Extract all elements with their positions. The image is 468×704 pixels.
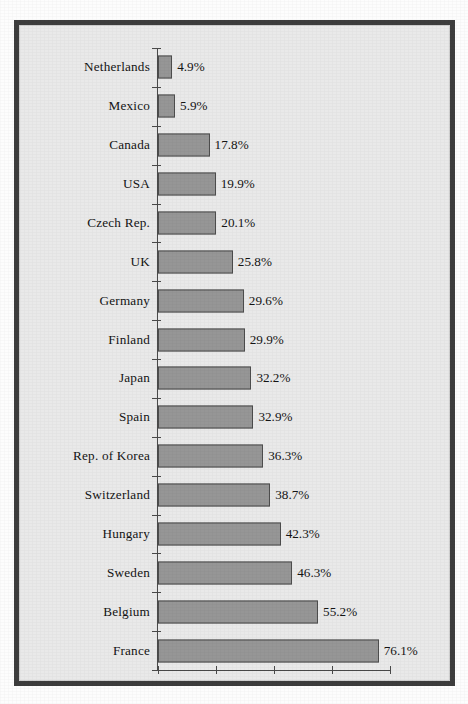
- category-label: Rep. of Korea: [19, 448, 150, 464]
- bar-value-label: 46.3%: [297, 565, 331, 581]
- category-label: Hungary: [19, 526, 150, 542]
- bar-row: Hungary42.3%: [19, 515, 450, 554]
- chart-frame: Netherlands4.9%Mexico5.9%Canada17.8%USA1…: [14, 20, 455, 686]
- bar-value-label: 76.1%: [384, 643, 418, 659]
- category-label: UK: [19, 254, 150, 270]
- category-label: Netherlands: [19, 59, 150, 75]
- bar: [158, 328, 245, 351]
- category-label: Germany: [19, 293, 150, 309]
- bar: [158, 173, 216, 196]
- bar: [158, 522, 281, 545]
- bar-row: Belgium55.2%: [19, 592, 450, 631]
- bar: [158, 561, 292, 584]
- bar-row: Netherlands4.9%: [19, 48, 450, 87]
- bar-value-label: 42.3%: [286, 526, 320, 542]
- bar-row: UK25.8%: [19, 242, 450, 281]
- bar-value-label: 19.9%: [221, 176, 255, 192]
- bar-row: Switzerland38.7%: [19, 476, 450, 515]
- category-label: Spain: [19, 409, 150, 425]
- bar: [158, 134, 210, 157]
- bar-row: Finland29.9%: [19, 320, 450, 359]
- bar-value-label: 20.1%: [221, 215, 255, 231]
- bar-row: Canada17.8%: [19, 126, 450, 165]
- bar-value-label: 36.3%: [268, 448, 302, 464]
- category-label: Belgium: [19, 604, 150, 620]
- bar: [158, 211, 216, 234]
- category-label: Czech Rep.: [19, 215, 150, 231]
- bar: [158, 406, 253, 429]
- category-label: Mexico: [19, 98, 150, 114]
- category-label: USA: [19, 176, 150, 192]
- bar-value-label: 29.9%: [250, 332, 284, 348]
- category-label: Sweden: [19, 565, 150, 581]
- bar-row: Czech Rep.20.1%: [19, 204, 450, 243]
- category-label: France: [19, 643, 150, 659]
- bar: [158, 56, 172, 79]
- figure-page: Netherlands4.9%Mexico5.9%Canada17.8%USA1…: [0, 0, 468, 704]
- bar-value-label: 4.9%: [177, 59, 204, 75]
- y-axis-tick: [152, 670, 161, 671]
- bar: [158, 250, 233, 273]
- bar: [158, 484, 270, 507]
- bar-row: Rep. of Korea36.3%: [19, 437, 450, 476]
- bar: [158, 95, 175, 118]
- bar-value-label: 32.9%: [258, 409, 292, 425]
- bar-row: Mexico5.9%: [19, 87, 450, 126]
- plot-area: Netherlands4.9%Mexico5.9%Canada17.8%USA1…: [19, 25, 450, 681]
- bar-row: USA19.9%: [19, 165, 450, 204]
- bar-value-label: 5.9%: [180, 98, 207, 114]
- bar: [158, 289, 244, 312]
- bar-value-label: 32.2%: [256, 370, 290, 386]
- bar: [158, 600, 318, 623]
- bar: [158, 367, 251, 390]
- bar-row: Japan32.2%: [19, 359, 450, 398]
- bar-row: Sweden46.3%: [19, 553, 450, 592]
- category-label: Canada: [19, 137, 150, 153]
- bar-value-label: 29.6%: [249, 293, 283, 309]
- category-label: Japan: [19, 370, 150, 386]
- bar-value-label: 38.7%: [275, 487, 309, 503]
- bar-value-label: 17.8%: [215, 137, 249, 153]
- category-label: Finland: [19, 332, 150, 348]
- bar: [158, 445, 263, 468]
- bar-value-label: 55.2%: [323, 604, 357, 620]
- bar-row: Spain32.9%: [19, 398, 450, 437]
- bar-row: France76.1%: [19, 631, 450, 670]
- bar: [158, 639, 379, 662]
- bar-row: Germany29.6%: [19, 281, 450, 320]
- category-label: Switzerland: [19, 487, 150, 503]
- bar-value-label: 25.8%: [238, 254, 272, 270]
